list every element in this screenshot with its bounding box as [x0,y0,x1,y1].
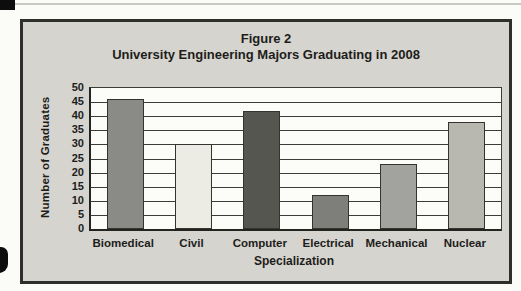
x-category-label-computer: Computer [233,237,287,249]
gridline-10 [91,201,501,202]
gridline-30 [91,144,501,145]
figure-panel: Figure 2 University Engineering Majors G… [20,19,512,284]
plot-area [89,87,502,231]
y-tick-label-25: 25 [60,152,84,165]
y-tick-label-15: 15 [60,180,84,193]
gridline-25 [91,159,501,160]
x-category-label-nuclear: Nuclear [444,237,486,249]
gridline-5 [91,215,501,216]
gridline-20 [91,173,501,174]
y-tick-label-5: 5 [60,208,84,221]
scan-left-ink-blob [0,247,8,273]
x-category-label-mechanical: Mechanical [366,237,428,249]
y-axis-title: Number of Graduates [39,84,57,230]
x-category-label-biomedical: Biomedical [92,237,153,249]
bar-mechanical [380,164,417,229]
scan-corner-mark [0,0,15,10]
bar-nuclear [448,122,485,229]
bar-civil [175,144,212,229]
figure-title: Figure 2 [23,31,509,46]
y-tick-label-35: 35 [60,123,84,136]
x-axis-title: Specialization [89,254,499,268]
y-tick-label-0: 0 [60,222,84,235]
y-tick-label-20: 20 [60,166,84,179]
x-category-label-electrical: Electrical [303,237,354,249]
y-tick-label-30: 30 [60,137,84,150]
y-tick-label-45: 45 [60,95,84,108]
gridline-45 [91,102,501,103]
y-tick-label-50: 50 [60,81,84,94]
bar-computer [243,111,280,229]
figure-subtitle: University Engineering Majors Graduating… [23,47,509,62]
gridline-40 [91,116,501,117]
gridline-15 [91,187,501,188]
y-tick-label-40: 40 [60,109,84,122]
x-category-label-civil: Civil [179,237,203,249]
page-root: Figure 2 University Engineering Majors G… [0,0,521,291]
bar-electrical [312,195,349,229]
bar-biomedical [107,99,144,229]
scan-page-edge-line [0,3,521,5]
gridline-35 [91,130,501,131]
y-tick-label-10: 10 [60,194,84,207]
